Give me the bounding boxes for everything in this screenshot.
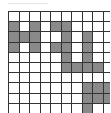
grid-cell-r7-c2[interactable] bbox=[30, 83, 41, 93]
grid-cell-r4-c5[interactable] bbox=[62, 53, 73, 63]
grid-cell-r7-c6[interactable] bbox=[72, 83, 83, 93]
grid-cell-r4-c6[interactable] bbox=[72, 53, 83, 63]
grid-cell-r6-c5[interactable] bbox=[62, 73, 73, 83]
grid-cell-r5-c6[interactable] bbox=[72, 63, 83, 73]
grid-cell-r9-c1[interactable] bbox=[20, 104, 31, 113]
grid-cell-r8-c6[interactable] bbox=[72, 94, 83, 104]
grid-cell-r7-c4[interactable] bbox=[51, 83, 62, 93]
grid-cell-r1-c0[interactable] bbox=[9, 22, 20, 32]
grid-cell-r4-c0[interactable] bbox=[9, 53, 20, 63]
grid-cell-r1-c5[interactable] bbox=[62, 22, 73, 32]
grid-cell-r3-c0[interactable] bbox=[9, 43, 20, 53]
grid-cell-r7-c8[interactable] bbox=[93, 83, 104, 93]
grid-cell-r4-c1[interactable] bbox=[20, 53, 31, 63]
grid-cell-r2-c0[interactable] bbox=[9, 32, 20, 42]
grid-cell-r1-c2[interactable] bbox=[30, 22, 41, 32]
grid-cell-r6-c9[interactable] bbox=[104, 73, 111, 83]
grid-cell-r2-c4[interactable] bbox=[51, 32, 62, 42]
grid-cell-r2-c6[interactable] bbox=[72, 32, 83, 42]
grid-cell-r8-c3[interactable] bbox=[41, 94, 52, 104]
grid-cell-r3-c3[interactable] bbox=[41, 43, 52, 53]
grid-cell-r3-c5[interactable] bbox=[62, 43, 73, 53]
grid-cell-r6-c2[interactable] bbox=[30, 73, 41, 83]
grid-cell-r4-c9[interactable] bbox=[104, 53, 111, 63]
grid-cell-r7-c1[interactable] bbox=[20, 83, 31, 93]
grid-cell-r7-c0[interactable] bbox=[9, 83, 20, 93]
grid-cell-r7-c9[interactable] bbox=[104, 83, 111, 93]
grid-cell-r4-c3[interactable] bbox=[41, 53, 52, 63]
grid-cell-r1-c3[interactable] bbox=[41, 22, 52, 32]
grid-cell-r6-c6[interactable] bbox=[72, 73, 83, 83]
grid-cell-r8-c1[interactable] bbox=[20, 94, 31, 104]
grid-cell-r9-c9[interactable] bbox=[104, 104, 111, 113]
grid-cell-r0-c1[interactable] bbox=[20, 12, 31, 22]
grid-cell-r9-c6[interactable] bbox=[72, 104, 83, 113]
grid-cell-r7-c5[interactable] bbox=[62, 83, 73, 93]
puzzle-grid[interactable] bbox=[8, 11, 110, 113]
grid-cell-r5-c0[interactable] bbox=[9, 63, 20, 73]
grid-cell-r4-c8[interactable] bbox=[93, 53, 104, 63]
grid-cell-r9-c3[interactable] bbox=[41, 104, 52, 113]
grid-cell-r8-c0[interactable] bbox=[9, 94, 20, 104]
grid-cell-r4-c4[interactable] bbox=[51, 53, 62, 63]
grid-cell-r0-c6[interactable] bbox=[72, 12, 83, 22]
grid-cell-r3-c2[interactable] bbox=[30, 43, 41, 53]
grid-cell-r5-c7[interactable] bbox=[83, 63, 94, 73]
grid-cell-r8-c4[interactable] bbox=[51, 94, 62, 104]
grid-cell-r7-c7[interactable] bbox=[83, 83, 94, 93]
grid-cell-r5-c8[interactable] bbox=[93, 63, 104, 73]
grid-cell-r1-c1[interactable] bbox=[20, 22, 31, 32]
grid-cell-r9-c0[interactable] bbox=[9, 104, 20, 113]
grid-cell-r1-c4[interactable] bbox=[51, 22, 62, 32]
grid-cell-r0-c9[interactable] bbox=[104, 12, 111, 22]
grid-cell-r3-c7[interactable] bbox=[83, 43, 94, 53]
grid-cell-r3-c4[interactable] bbox=[51, 43, 62, 53]
grid-cell-r0-c8[interactable] bbox=[93, 12, 104, 22]
grid-cell-r2-c3[interactable] bbox=[41, 32, 52, 42]
grid-cell-r0-c3[interactable] bbox=[41, 12, 52, 22]
grid-cell-r8-c9[interactable] bbox=[104, 94, 111, 104]
grid-cell-r1-c9[interactable] bbox=[104, 22, 111, 32]
grid-cell-r2-c9[interactable] bbox=[104, 32, 111, 42]
grid-cell-r5-c5[interactable] bbox=[62, 63, 73, 73]
grid-cell-r2-c7[interactable] bbox=[83, 32, 94, 42]
grid-cell-r5-c3[interactable] bbox=[41, 63, 52, 73]
grid-cell-r1-c6[interactable] bbox=[72, 22, 83, 32]
grid-cell-r1-c8[interactable] bbox=[93, 22, 104, 32]
grid-cell-r0-c0[interactable] bbox=[9, 12, 20, 22]
grid-cell-r3-c8[interactable] bbox=[93, 43, 104, 53]
grid-cell-r3-c6[interactable] bbox=[72, 43, 83, 53]
grid-cell-r3-c1[interactable] bbox=[20, 43, 31, 53]
grid-cell-r8-c8[interactable] bbox=[93, 94, 104, 104]
grid-cell-r6-c7[interactable] bbox=[83, 73, 94, 83]
grid-cell-r4-c2[interactable] bbox=[30, 53, 41, 63]
grid-cell-r9-c8[interactable] bbox=[93, 104, 104, 113]
grid-cell-r8-c2[interactable] bbox=[30, 94, 41, 104]
grid-cell-r1-c7[interactable] bbox=[83, 22, 94, 32]
grid-cell-r2-c8[interactable] bbox=[93, 32, 104, 42]
grid-cell-r5-c2[interactable] bbox=[30, 63, 41, 73]
grid-cell-r6-c0[interactable] bbox=[9, 73, 20, 83]
grid-cell-r7-c3[interactable] bbox=[41, 83, 52, 93]
grid-cell-r0-c4[interactable] bbox=[51, 12, 62, 22]
grid-cell-r6-c4[interactable] bbox=[51, 73, 62, 83]
grid-cell-r8-c5[interactable] bbox=[62, 94, 73, 104]
grid-cell-r6-c1[interactable] bbox=[20, 73, 31, 83]
grid-cell-r3-c9[interactable] bbox=[104, 43, 111, 53]
grid-cell-r5-c9[interactable] bbox=[104, 63, 111, 73]
grid-cell-r0-c7[interactable] bbox=[83, 12, 94, 22]
grid-cell-r9-c5[interactable] bbox=[62, 104, 73, 113]
grid-cell-r5-c1[interactable] bbox=[20, 63, 31, 73]
grid-cell-r0-c2[interactable] bbox=[30, 12, 41, 22]
grid-cell-r2-c1[interactable] bbox=[20, 32, 31, 42]
grid-cell-r9-c2[interactable] bbox=[30, 104, 41, 113]
grid-cell-r0-c5[interactable] bbox=[62, 12, 73, 22]
grid-cell-r6-c3[interactable] bbox=[41, 73, 52, 83]
grid-cell-r2-c5[interactable] bbox=[62, 32, 73, 42]
grid-cell-r2-c2[interactable] bbox=[30, 32, 41, 42]
grid-cell-r9-c4[interactable] bbox=[51, 104, 62, 113]
grid-cell-r5-c4[interactable] bbox=[51, 63, 62, 73]
grid-cell-r9-c7[interactable] bbox=[83, 104, 94, 113]
grid-cell-r6-c8[interactable] bbox=[93, 73, 104, 83]
grid-cell-r8-c7[interactable] bbox=[83, 94, 94, 104]
